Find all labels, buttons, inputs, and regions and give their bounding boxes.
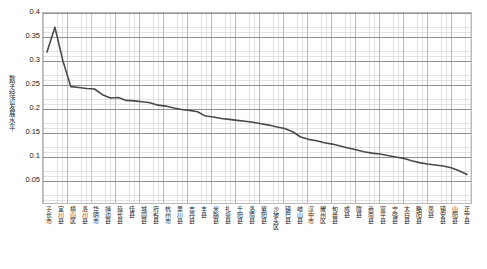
y-axis-tick-label: 0.1	[6, 152, 40, 160]
x-axis-tick-text: 吴川县	[176, 206, 182, 224]
y-axis-tick-label: 0.4	[6, 8, 40, 16]
x-axis-tick-label: 吴川县	[174, 206, 184, 224]
x-axis-tick-text: 陇县	[355, 206, 361, 218]
y-axis-tick-label: 0.25	[6, 80, 40, 88]
x-axis-tick-label: 宁强县	[389, 206, 399, 224]
x-axis-tick-text: 太白县	[403, 206, 409, 224]
y-axis-tick-label: 0.35	[6, 32, 40, 40]
x-axis-tick-text: 汉中市	[308, 206, 314, 224]
x-axis-tick-label: 陇县	[354, 206, 364, 218]
x-axis-tick-label: 略阳县	[413, 206, 423, 224]
y-axis-tick-label: 0.05	[6, 176, 40, 184]
x-axis-tick-text: 礼泉县	[224, 206, 230, 224]
x-axis-tick-text: 城固县	[140, 206, 146, 224]
x-axis-tick-label: 汉中市	[306, 206, 316, 224]
x-axis-tick-label: 凤县	[425, 206, 435, 218]
x-axis-tick-label: 横山区	[67, 206, 77, 224]
x-axis-tick-text: 凤县	[427, 206, 433, 218]
x-axis-tick-text: 千阳县	[236, 206, 242, 224]
x-axis-tick-text: 延长县	[116, 206, 122, 224]
x-axis-tick-label: 成县	[342, 206, 352, 218]
x-axis-tick-text: 丰县	[200, 206, 206, 218]
x-axis-tick-text: 耀州区	[319, 206, 325, 224]
x-axis-tick-text: 宁强县	[391, 206, 397, 224]
x-axis-tick-text: 横山区	[69, 206, 75, 224]
x-axis-tick-text: 洛川县	[81, 206, 87, 224]
x-axis-tick-text: 镇安县	[439, 206, 445, 224]
y-axis-tick-label: 0.2	[6, 104, 40, 112]
x-axis-tick-label: 靖边县	[103, 206, 113, 224]
x-axis-tick-text: 府谷县	[152, 206, 158, 224]
x-axis-tick-text: 洛南县	[248, 206, 254, 224]
x-axis-tick-label: 镇安县	[437, 206, 447, 224]
y-axis-tick-label: 0.3	[6, 56, 40, 64]
x-axis-tick-label: 旬邑县	[330, 206, 340, 224]
x-axis-tick-text: 宜川县	[57, 206, 63, 224]
x-axis-tick-text: 略阳县	[415, 206, 421, 224]
x-axis-tick-label: 礼泉县	[222, 206, 232, 224]
x-axis-tick-label: 千阳县	[234, 206, 244, 224]
x-axis-tick-text: 沙坡头区	[272, 206, 278, 230]
x-axis-tick-label: 岐山县	[294, 206, 304, 224]
x-axis-tick-text: 富平县	[379, 206, 385, 224]
x-axis-tick-label: 沙坡头区	[270, 206, 280, 230]
x-axis-tick-text: 商南县	[367, 206, 373, 224]
x-axis-tick-label: 正宁县	[461, 206, 471, 224]
x-axis-tick-text: 镇巴县	[284, 206, 290, 224]
x-axis-tick-text: 佳县	[128, 206, 134, 218]
x-axis-tick-label: 华阴市	[91, 206, 101, 224]
x-axis-tick-label: 城固县	[139, 206, 149, 224]
x-axis-tick-text: 成县	[343, 206, 349, 218]
x-axis-tick-label: 富平县	[377, 206, 387, 224]
x-axis-tick-label: 太白县	[401, 206, 411, 224]
x-axis-tick-text: 山阳县	[451, 206, 457, 224]
x-axis-tick-text: 靖边县	[104, 206, 110, 224]
x-axis-tick-label: 耀州区	[318, 206, 328, 224]
x-axis-tick-text: 杭州市	[164, 206, 170, 224]
x-axis-tick-label: 洛南县	[246, 206, 256, 224]
x-axis-tick-label: 商南县	[365, 206, 375, 224]
x-axis-tick-text: 紫阳县	[260, 206, 266, 224]
x-axis-tick-label: 宜川县	[55, 206, 65, 224]
x-axis-tick-label: 志丹县	[186, 206, 196, 224]
x-axis-tick-text: 子长市	[45, 206, 51, 224]
x-axis-tick-label: 山阳县	[449, 206, 459, 224]
series-line	[43, 13, 471, 203]
x-axis-tick-text: 志丹县	[188, 206, 194, 224]
x-axis-tick-label: 丰县	[198, 206, 208, 218]
x-axis-tick-label: 紫阳县	[258, 206, 268, 224]
x-axis-tick-label: 府谷县	[150, 206, 160, 224]
x-axis-tick-label: 杭州市	[162, 206, 172, 224]
x-axis-tick-text: 岐山县	[296, 206, 302, 224]
x-axis-ticks: 子长市宜川县横山区洛川县华阴市靖边县延长县佳县城固县府谷县杭州市吴川县志丹县丰县…	[42, 206, 472, 264]
x-axis-tick-label: 佳县	[127, 206, 137, 218]
x-axis-tick-label: 米脂县	[210, 206, 220, 224]
x-axis-tick-label: 子长市	[43, 206, 53, 224]
y-axis-ticks: 0.050.10.150.20.250.30.350.4	[2, 0, 40, 205]
plot-area	[42, 12, 472, 204]
x-axis-tick-text: 正宁县	[463, 206, 469, 224]
x-axis-tick-text: 华阴市	[93, 206, 99, 224]
line-chart: 数字经济发展水平 0.050.10.150.20.250.30.350.4 子长…	[0, 0, 487, 269]
x-axis-tick-label: 延长县	[115, 206, 125, 224]
x-axis-tick-text: 旬邑县	[331, 206, 337, 224]
x-axis-tick-label: 洛川县	[79, 206, 89, 224]
y-axis-tick-label: 0.15	[6, 128, 40, 136]
x-axis-tick-text: 米脂县	[212, 206, 218, 224]
x-axis-tick-label: 镇巴县	[282, 206, 292, 224]
